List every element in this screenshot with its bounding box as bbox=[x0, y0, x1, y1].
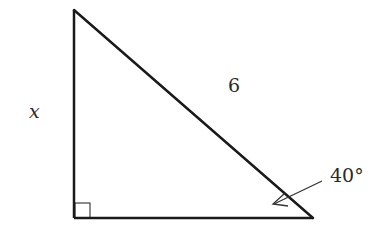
hypotenuse bbox=[74, 10, 313, 218]
label-hypotenuse: 6 bbox=[228, 74, 240, 96]
label-angle: 40° bbox=[330, 164, 364, 186]
triangle bbox=[74, 10, 313, 218]
triangle-diagram: x 6 40° bbox=[0, 0, 383, 238]
angle-arrow bbox=[273, 181, 322, 206]
right-angle-marker bbox=[75, 203, 90, 218]
label-x: x bbox=[29, 100, 40, 122]
